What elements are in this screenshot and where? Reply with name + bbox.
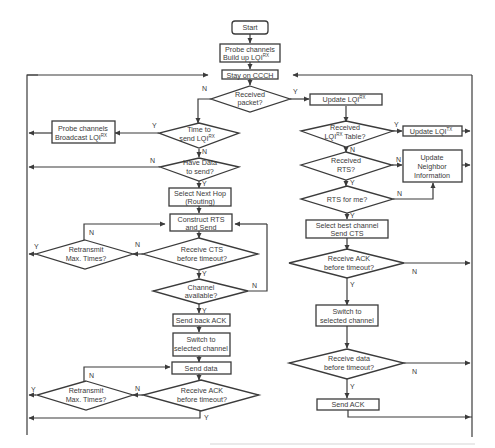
switch-channel-node-right: Switch to selected channel [316, 305, 378, 326]
svg-text:Max. Times?: Max. Times? [66, 254, 107, 263]
svg-text:Switch to: Switch to [332, 307, 361, 316]
svg-text:Send back ACK: Send back ACK [176, 316, 227, 325]
svg-text:Have Data: Have Data [183, 158, 217, 167]
svg-text:Y: Y [152, 122, 157, 129]
svg-text:Receive ACK: Receive ACK [328, 254, 371, 263]
svg-text:selected channel: selected channel [320, 316, 374, 325]
probe-broadcast-lqi-node: Probe channels Broadcast LQIRX [52, 121, 115, 143]
update-lqi-tx-node: Update LQITX [403, 126, 462, 136]
svg-text:Send ACK: Send ACK [331, 400, 364, 409]
svg-text:Update: Update [420, 153, 443, 162]
svg-text:Start: Start [242, 23, 257, 32]
svg-text:before timeout?: before timeout? [324, 363, 374, 372]
switch-channel-node-left: Switch to selected channel [173, 333, 230, 356]
received-lqi-table-decision: Received LQIRX Table? [301, 121, 393, 147]
svg-text:Received: Received [331, 156, 361, 165]
stay-on-ccch-node: Stay on CCCH [222, 70, 278, 80]
svg-text:Received: Received [330, 123, 360, 132]
svg-text:Receive ACK: Receive ACK [181, 386, 224, 395]
svg-text:Y: Y [350, 212, 355, 219]
receive-ack-decision-left: Receive ACK before timeout? [143, 380, 259, 411]
receive-ack-decision-right: Receive ACK before timeout? [289, 249, 404, 278]
svg-text:N: N [252, 282, 257, 289]
svg-text:Y: Y [293, 88, 298, 95]
start-node: Start [232, 21, 268, 34]
svg-text:to send?: to send? [186, 167, 214, 176]
svg-text:Max. Times?: Max. Times? [66, 395, 107, 404]
svg-text:N: N [412, 268, 417, 275]
channel-available-decision: Channel available? [153, 279, 248, 304]
svg-text:and Send: and Send [186, 223, 217, 232]
svg-text:LQIRX Table?: LQIRX Table? [325, 132, 366, 141]
svg-text:Y: Y [350, 281, 355, 288]
construct-rts-node: Construct RTS and Send [170, 214, 232, 232]
svg-text:Y: Y [394, 121, 399, 128]
have-data-decision: Have Data to send? [160, 158, 239, 181]
svg-text:Information: Information [414, 171, 450, 180]
retransmit-max-decision-1: Retransmit Max. Times? [36, 240, 133, 269]
svg-text:Stay on CCCH: Stay on CCCH [226, 71, 273, 80]
svg-text:Update LQITX: Update LQITX [410, 127, 453, 136]
svg-text:Y: Y [202, 270, 207, 277]
svg-text:N: N [89, 229, 94, 236]
flowchart-canvas: Start Probe channels Build up LQIRX Stay… [0, 0, 495, 448]
svg-text:Probe channels: Probe channels [58, 124, 108, 133]
svg-text:selected channel: selected channel [174, 344, 228, 353]
probe-build-lqi-node: Probe channels Build up LQIRX [220, 44, 280, 62]
svg-text:packet?: packet? [237, 98, 262, 107]
svg-text:Send CTS: Send CTS [330, 229, 363, 238]
rts-for-me-decision: RTS for me? [301, 186, 393, 213]
svg-text:Send data: Send data [185, 364, 218, 373]
svg-text:Y: Y [202, 307, 207, 314]
svg-text:Build up LQIRX: Build up LQIRX [223, 53, 269, 62]
svg-text:Retransmit: Retransmit [69, 245, 104, 254]
select-next-hop-node: Select Next Hop (Routing) [169, 188, 231, 206]
svg-text:RTS?: RTS? [337, 165, 355, 174]
svg-text:Y: Y [202, 180, 207, 187]
svg-text:(Routing): (Routing) [185, 197, 215, 206]
svg-text:before timeout?: before timeout? [177, 254, 227, 263]
bottom-edge-shadow [210, 443, 475, 445]
svg-text:N: N [89, 372, 94, 379]
select-best-channel-node: Select best channel Send CTS [306, 220, 388, 238]
svg-text:available?: available? [185, 291, 217, 300]
svg-text:N: N [350, 146, 355, 153]
svg-text:Y: Y [31, 386, 36, 393]
flowchart-svg: Start Probe channels Build up LQIRX Stay… [0, 0, 495, 448]
svg-text:RTS for me?: RTS for me? [327, 195, 368, 204]
receive-cts-decision: Receive CTS before timeout? [143, 238, 258, 270]
svg-text:Y: Y [350, 383, 355, 390]
received-packet-decision: Received packet? [211, 86, 290, 112]
retransmit-max-decision-2: Retransmit Max. Times? [37, 381, 133, 410]
send-ack-node: Send ACK [317, 399, 379, 410]
svg-text:Y: Y [350, 179, 355, 186]
update-neighbor-node: Update Neighbor Information [403, 150, 462, 182]
svg-text:N: N [396, 156, 401, 163]
svg-text:Switch to: Switch to [186, 335, 215, 344]
update-lqi-rx-node: Update LQIRX [310, 94, 382, 105]
svg-text:N: N [397, 190, 402, 197]
svg-text:before timeout?: before timeout? [177, 395, 227, 404]
svg-text:Time to: Time to [187, 125, 211, 134]
svg-text:N: N [135, 241, 140, 248]
svg-text:Neighbor: Neighbor [417, 162, 447, 171]
received-rts-decision: Received RTS? [301, 152, 392, 180]
send-data-node: Send data [172, 362, 231, 374]
svg-text:Y: Y [204, 414, 209, 421]
svg-text:N: N [150, 157, 155, 164]
receive-data-decision: Receive data before timeout? [289, 349, 404, 379]
svg-text:Receive data: Receive data [328, 354, 370, 363]
svg-text:Update LQIRX: Update LQIRX [322, 95, 365, 104]
svg-text:N: N [135, 385, 140, 392]
svg-text:Y: Y [34, 243, 39, 250]
svg-text:Receive CTS: Receive CTS [181, 245, 224, 254]
send-back-ack-node: Send back ACK [173, 314, 230, 326]
svg-text:before timeout?: before timeout? [324, 263, 374, 272]
svg-text:Broadcast LQIRX: Broadcast LQIRX [55, 133, 107, 142]
svg-text:N: N [412, 368, 417, 375]
svg-text:N: N [202, 85, 207, 92]
time-to-send-lqi-decision: Time to send LQIRX [159, 123, 239, 148]
svg-text:Retransmit: Retransmit [69, 386, 104, 395]
svg-text:N: N [202, 148, 207, 155]
